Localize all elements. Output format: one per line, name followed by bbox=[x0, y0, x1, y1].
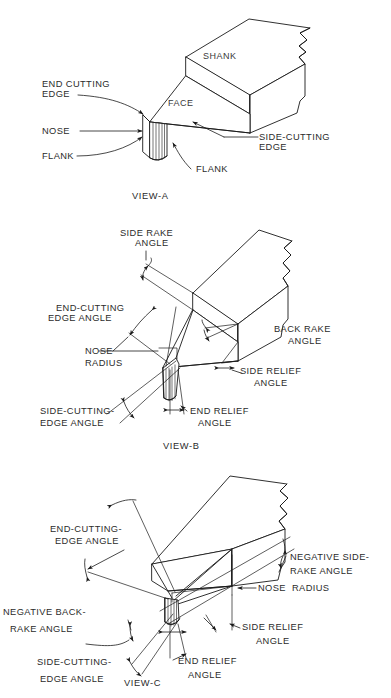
label-end-cutting-edge-angle-c-line2: EDGE ANGLE bbox=[55, 536, 119, 546]
label-side-cutting-edge-angle-c-line2: EDGE ANGLE bbox=[40, 674, 104, 684]
label-side-cutting-edge-line2: EDGE bbox=[259, 142, 287, 152]
label-end-relief-angle: END RELIEF bbox=[190, 406, 249, 416]
label-flank-left: FLANK bbox=[42, 151, 74, 161]
label-negative-side-rake-angle: NEGATIVE SIDE- bbox=[290, 552, 369, 562]
label-end-cutting-edge: END CUTTING bbox=[42, 79, 110, 89]
label-nose-radius-c: NOSE RADIUS bbox=[258, 583, 329, 593]
label-side-cutting-edge: SIDE-CUTTING bbox=[259, 132, 330, 142]
label-end-cutting-edge-angle: END-CUTTING bbox=[56, 303, 124, 313]
label-side-relief-angle-c-line2: ANGLE bbox=[256, 636, 290, 646]
label-side-cutting-edge-angle-line2: EDGE ANGLE bbox=[40, 418, 104, 428]
view-c-figure: END-CUTTING- EDGE ANGLE NEGATIVE BACK- R… bbox=[0, 452, 391, 698]
view-b-figure: SIDE RAKE ANGLE END-CUTTING EDGE ANGLE N… bbox=[0, 218, 391, 458]
label-nose-radius-line2: RADIUS bbox=[85, 358, 123, 368]
label-back-rake-angle: BACK RAKE bbox=[274, 324, 331, 334]
label-negative-side-rake-angle-line2: RAKE ANGLE bbox=[290, 566, 353, 576]
label-nose-radius: NOSE bbox=[85, 346, 113, 356]
label-shank: SHANK bbox=[203, 51, 237, 61]
label-side-relief-angle: SIDE RELIEF bbox=[240, 366, 301, 376]
label-side-relief-angle-line2: ANGLE bbox=[254, 378, 288, 388]
label-negative-back-rake-angle-line2: RAKE ANGLE bbox=[10, 624, 73, 634]
caption-view-b: VIEW-B bbox=[163, 441, 200, 451]
drawing-sheet: END CUTTING EDGE NOSE FLANK FLANK SHANK … bbox=[0, 0, 391, 698]
label-side-rake-angle-line2: ANGLE bbox=[135, 238, 169, 248]
label-nose: NOSE bbox=[42, 126, 70, 136]
label-negative-back-rake-angle: NEGATIVE BACK- bbox=[3, 607, 86, 617]
tool-shank-c bbox=[152, 476, 288, 591]
label-side-cutting-edge-angle: SIDE-CUTTING- bbox=[40, 406, 114, 416]
caption-view-a: VIEW-A bbox=[132, 191, 169, 201]
label-end-cutting-edge-angle-line2: EDGE ANGLE bbox=[48, 313, 112, 323]
caption-view-c: VIEW-C bbox=[124, 678, 161, 688]
label-end-relief-angle-line2: ANGLE bbox=[198, 418, 232, 428]
label-side-cutting-edge-angle-c: SIDE-CUTTING- bbox=[37, 657, 111, 667]
label-end-cutting-edge-line2: EDGE bbox=[42, 89, 70, 99]
label-side-rake-angle: SIDE RAKE bbox=[120, 228, 173, 238]
label-face: FACE bbox=[168, 98, 194, 108]
label-end-relief-angle-c-line2: ANGLE bbox=[188, 670, 222, 680]
label-end-relief-angle-c: END RELIEF bbox=[178, 656, 237, 666]
label-side-relief-angle-c: SIDE RELIEF bbox=[242, 622, 303, 632]
label-back-rake-angle-line2: ANGLE bbox=[288, 336, 322, 346]
view-a-figure: END CUTTING EDGE NOSE FLANK FLANK SHANK … bbox=[0, 0, 391, 215]
label-flank-right: FLANK bbox=[196, 164, 228, 174]
label-end-cutting-edge-angle-c: END-CUTTING- bbox=[50, 524, 122, 534]
